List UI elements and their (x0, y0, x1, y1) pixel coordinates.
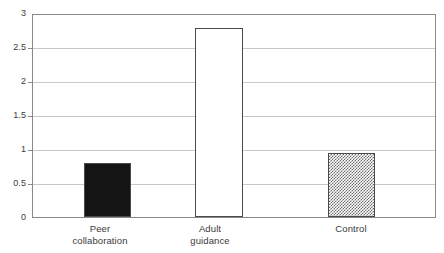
x-axis-label-peer-collaboration: Peer collaboration (46, 223, 154, 246)
x-axis-label-adult-guidance: Adult guidance (165, 223, 255, 246)
bar-peer-collaboration (84, 163, 131, 217)
y-axis-tick-label-1: 1 (0, 145, 26, 154)
plot-area (32, 14, 436, 218)
bar-control (328, 153, 375, 217)
bar-adult-guidance (195, 28, 243, 217)
x-axis-label-control: Control (306, 223, 396, 235)
y-axis-tick-label-3: 3 (0, 9, 26, 18)
bar-chart: 3 2.5 2 1.5 1 0.5 0 Peer collaboration A… (0, 0, 444, 253)
y-axis-tick-label-1.5: 1.5 (0, 111, 26, 120)
y-axis-tick-label-2: 2 (0, 77, 26, 86)
y-axis-tick-label-2.5: 2.5 (0, 43, 26, 52)
y-axis-tick-label-0: 0 (0, 213, 26, 222)
y-axis-tick-label-0.5: 0.5 (0, 179, 26, 188)
